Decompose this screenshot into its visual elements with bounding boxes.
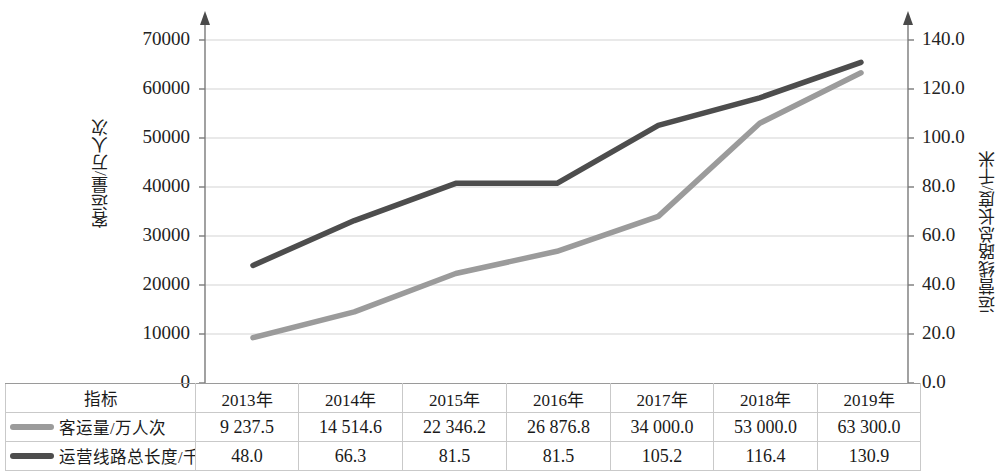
chart-data-table: 指标 2013年 2014年 2015年 2016年 2017年 2018年 2… [5, 383, 921, 471]
y-tick-label-60000: 60000 [100, 77, 190, 99]
y2-tick-label-140: 140.0 [922, 28, 1002, 50]
y-tick-label-40000: 40000 [100, 175, 190, 197]
y-axis-right-title: 运营线路总长度/千米 [975, 150, 1000, 313]
table-cell: 130.9 [818, 442, 921, 471]
y2-tick-label-100: 100.0 [922, 126, 1002, 148]
table-header-year-2018: 2018年 [714, 384, 818, 413]
y2-tick-label-120: 120.0 [922, 77, 1002, 99]
table-header-year-2013: 2013年 [196, 384, 299, 413]
table-header-indicator: 指标 [6, 384, 196, 413]
y-tick-label-70000: 70000 [100, 28, 190, 50]
y-axis-left [199, 11, 210, 383]
chart-plot-area: 70000 60000 50000 40000 30000 20000 1000… [0, 0, 1005, 385]
y-tick-label-20000: 20000 [100, 273, 190, 295]
table-cell: 34 000.0 [611, 413, 714, 442]
table-cell: 53 000.0 [714, 413, 818, 442]
table-cell: 105.2 [611, 442, 714, 471]
y-tick-label-30000: 30000 [100, 224, 190, 246]
legend-swatch-icon [10, 453, 54, 459]
table-cell: 63 300.0 [818, 413, 921, 442]
table-row: 运营线路总长度/千米 48.0 66.3 81.5 81.5 105.2 116… [6, 442, 921, 471]
table-cell: 14 514.6 [299, 413, 403, 442]
chart-page: 70000 60000 50000 40000 30000 20000 1000… [0, 0, 1005, 471]
table-cell: 9 237.5 [196, 413, 299, 442]
table-cell: 116.4 [714, 442, 818, 471]
table-row: 客运量/万人次 9 237.5 14 514.6 22 346.2 26 876… [6, 413, 921, 442]
legend-row-passenger-volume: 客运量/万人次 [6, 413, 196, 442]
y-axis-left-arrow [200, 11, 210, 25]
table-header-row: 指标 2013年 2014年 2015年 2016年 2017年 2018年 2… [6, 384, 921, 413]
table-header-year-2016: 2016年 [507, 384, 611, 413]
legend-label: 客运量/万人次 [59, 415, 191, 439]
table-header-year-2017: 2017年 [611, 384, 714, 413]
table-cell: 22 346.2 [403, 413, 507, 442]
y-axis-right-arrow [903, 11, 913, 25]
table-cell: 26 876.8 [507, 413, 611, 442]
table-header-year-2019: 2019年 [818, 384, 921, 413]
y2-tick-label-20: 20.0 [922, 322, 1002, 344]
table-header-year-2015: 2015年 [403, 384, 507, 413]
y-axis-right [903, 11, 914, 383]
series-line-passenger-volume [253, 73, 861, 338]
table-header-year-2014: 2014年 [299, 384, 403, 413]
series-line-route-length [253, 62, 861, 265]
y-axis-left-title: 客运量/万人次 [88, 118, 113, 228]
table-cell: 81.5 [403, 442, 507, 471]
y-tick-label-50000: 50000 [100, 126, 190, 148]
table-cell: 66.3 [299, 442, 403, 471]
legend-label: 运营线路总长度/千米 [59, 444, 196, 468]
legend-swatch-icon [10, 424, 54, 430]
legend-row-route-length: 运营线路总长度/千米 [6, 442, 196, 471]
y-tick-label-10000: 10000 [100, 322, 190, 344]
table-cell: 48.0 [196, 442, 299, 471]
table-cell: 81.5 [507, 442, 611, 471]
y2-tick-label-0: 0.0 [922, 371, 1002, 393]
